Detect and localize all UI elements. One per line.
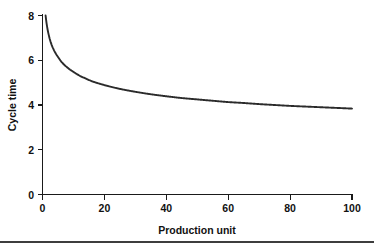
y-tick-label-6: 6 <box>28 54 34 66</box>
x-tick-label-100: 100 <box>343 202 361 214</box>
x-tick-label-80: 80 <box>284 202 296 214</box>
x-axis-title: Production unit <box>158 224 236 236</box>
y-tick-label-0: 0 <box>28 189 34 201</box>
y-tick-label-2: 2 <box>28 144 34 156</box>
y-tick-label-8: 8 <box>28 10 34 22</box>
x-tick-label-20: 20 <box>99 202 111 214</box>
cycle-time-line-chart: 0 2 4 6 8 0 20 40 60 80 100 Production u… <box>0 0 374 250</box>
chart-figure: 0 2 4 6 8 0 20 40 60 80 100 Production u… <box>0 0 374 250</box>
y-axis-title: Cycle time <box>6 79 18 132</box>
chart-background <box>0 0 374 250</box>
x-tick-label-0: 0 <box>40 202 46 214</box>
y-tick-label-4: 4 <box>28 99 34 111</box>
x-tick-label-40: 40 <box>160 202 172 214</box>
x-tick-label-60: 60 <box>222 202 234 214</box>
footer-divider-rule <box>0 241 374 243</box>
